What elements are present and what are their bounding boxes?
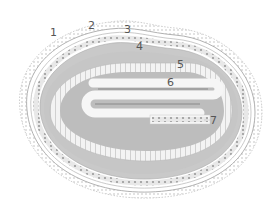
label-1: 1 — [50, 27, 57, 38]
label-5: 5 — [177, 59, 184, 70]
label-7: 7 — [210, 115, 217, 126]
label-3: 3 — [124, 24, 131, 35]
layer-6-inner-core — [60, 72, 224, 151]
cross-section-diagram — [0, 0, 275, 213]
label-6: 6 — [167, 77, 174, 88]
label-4: 4 — [136, 41, 143, 52]
label-2: 2 — [88, 20, 95, 31]
